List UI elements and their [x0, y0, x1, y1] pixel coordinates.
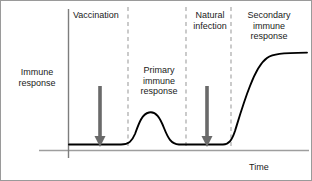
annotation-natural-infection: Natural infection [189, 10, 231, 31]
annotation-secondary-immune-response: Secondary immune response [234, 10, 304, 42]
y-axis-label: Immune response [9, 67, 65, 88]
immune-response-curve [69, 53, 307, 145]
x-axis-label: Time [249, 162, 289, 173]
immune-response-figure: Vaccination Natural infection Secondary … [0, 0, 312, 181]
vaccination-arrow-icon [95, 86, 106, 147]
annotation-primary-immune-response: Primary immune response [132, 65, 186, 97]
annotation-vaccination: Vaccination [73, 10, 129, 21]
natural-infection-arrow-icon [202, 86, 213, 147]
